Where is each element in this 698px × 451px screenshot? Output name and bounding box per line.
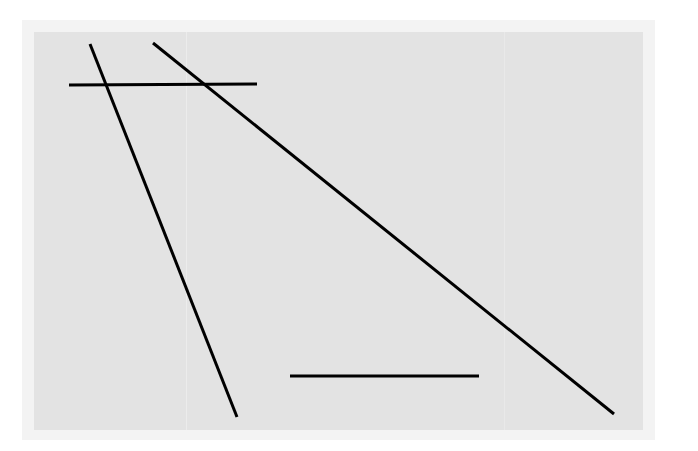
diagonal-left-line [90, 44, 237, 417]
diagonal-right-line [153, 43, 614, 414]
line-figure [0, 0, 698, 451]
horizontal-top-line [69, 84, 257, 85]
